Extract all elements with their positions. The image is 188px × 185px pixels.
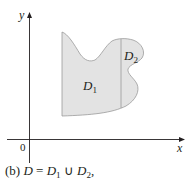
region-d2-label: D2 <box>124 48 138 65</box>
y-axis-arrow-icon <box>27 12 32 18</box>
figure-caption: (b) D = D1 ∪ D2, <box>5 163 94 180</box>
region-d1-label: D1 <box>83 78 97 95</box>
origin-label: 0 <box>20 141 26 153</box>
region-d <box>62 32 144 116</box>
y-axis-label: y <box>19 8 24 23</box>
region-diagram: y x 0 D1 D2 (b) D = D1 ∪ D2, <box>0 0 188 185</box>
x-axis-label: x <box>177 141 182 156</box>
